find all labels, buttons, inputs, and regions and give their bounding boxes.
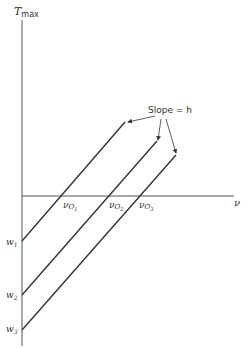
line-3 [22,155,176,330]
threshold-label-2: νO2 [109,200,123,212]
intercept-label-2: w2 [6,290,18,301]
intercept-label-3: w3 [6,324,18,335]
arrow-2 [158,119,161,140]
arrow-3 [166,119,176,153]
arrow-1 [128,116,155,122]
y-axis-label: Tmax [14,5,39,19]
intercept-label-1: w1 [6,237,18,248]
x-axis-label: ν [234,197,240,208]
threshold-label-3: νO3 [139,200,153,212]
slope-annotation: Slope = h [148,105,192,115]
line-1 [22,122,125,241]
threshold-label-1: νO1 [63,200,77,212]
photoelectric-diagram: Tmax ν Slope = h νO1 νO2 νO3 w1 w2 w3 [0,0,248,348]
